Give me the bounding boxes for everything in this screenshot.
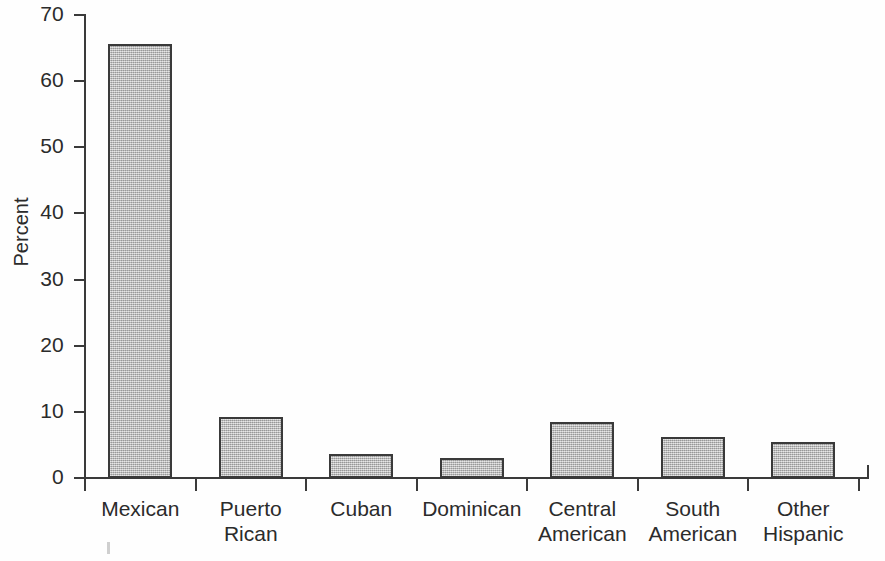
y-tick-label: 70 (18, 3, 64, 24)
y-tick-label: 50 (18, 135, 64, 156)
scan-artifact-mark (107, 542, 110, 554)
plot-area: Percent 706050403020100 MexicanPuerto Ri… (0, 0, 885, 561)
y-tick-mark (74, 279, 86, 281)
y-tick-mark (74, 80, 86, 82)
x-tick-mark (305, 478, 307, 491)
y-tick: 10 (0, 411, 86, 413)
bar (219, 417, 283, 478)
bar (661, 437, 725, 478)
y-tick: 50 (0, 146, 86, 148)
y-tick: 30 (0, 279, 86, 281)
y-tick-label: 0 (18, 466, 64, 487)
x-category-label: Other Hispanic (728, 496, 878, 546)
y-axis-line (84, 15, 86, 479)
y-tick: 20 (0, 345, 86, 347)
bar (771, 442, 835, 478)
y-tick-label: 10 (18, 400, 64, 421)
y-tick-label: 20 (18, 334, 64, 355)
y-tick-label: 40 (18, 201, 64, 222)
x-tick-mark (416, 478, 418, 491)
y-tick-mark (74, 411, 86, 413)
y-tick-mark (74, 146, 86, 148)
y-tick: 70 (0, 14, 86, 16)
bar (440, 458, 504, 478)
y-tick-label: 30 (18, 268, 64, 289)
bar (108, 44, 172, 478)
y-tick-mark (74, 14, 86, 16)
y-tick-mark (74, 345, 86, 347)
y-tick: 0 (0, 477, 86, 479)
y-tick: 40 (0, 212, 86, 214)
bar-chart-figure: Percent 706050403020100 MexicanPuerto Ri… (0, 0, 885, 561)
x-tick-mark (747, 478, 749, 491)
y-tick-mark (74, 212, 86, 214)
y-tick-label: 60 (18, 69, 64, 90)
x-tick-mark (526, 478, 528, 491)
x-tick-mark (195, 478, 197, 491)
x-axis-end-tick (867, 465, 869, 478)
y-tick: 60 (0, 80, 86, 82)
x-tick-mark (858, 478, 860, 491)
bar (550, 422, 614, 478)
x-tick-mark (84, 478, 86, 491)
bar (329, 454, 393, 478)
x-tick-mark (637, 478, 639, 491)
